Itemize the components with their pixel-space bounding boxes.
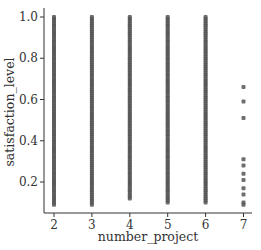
data-point [242, 172, 246, 176]
y-tick-label: 1.0 [19, 10, 38, 24]
x-tick-label: 7 [240, 218, 248, 232]
y-tick-label: 0.6 [19, 93, 38, 107]
y-tick-label: 0.8 [19, 51, 38, 65]
data-point [242, 192, 246, 196]
data-point [242, 186, 246, 190]
data-point [242, 178, 246, 182]
y-tick-label: 0.2 [19, 175, 38, 189]
data-point [90, 203, 94, 207]
x-tick-label: 3 [88, 218, 96, 232]
data-point [52, 203, 56, 207]
data-point [242, 157, 246, 161]
scatter-plot: 0.20.40.60.81.0 234567 number_project sa… [0, 0, 261, 250]
data-point [204, 201, 208, 205]
data-point [242, 116, 246, 120]
y-tick-label: 0.4 [19, 134, 38, 148]
data-point [242, 203, 246, 207]
data-point [128, 197, 132, 201]
x-axis-title: number_project [98, 229, 198, 244]
data-point [166, 201, 170, 205]
y-axis-ticks: 0.20.40.60.81.0 [19, 10, 44, 189]
data-points [52, 15, 246, 207]
y-axis-title: satisfaction_level [2, 57, 17, 166]
x-tick-label: 6 [202, 218, 210, 232]
data-point [242, 85, 246, 89]
x-tick-label: 2 [50, 218, 58, 232]
data-point [242, 164, 246, 168]
data-point [242, 100, 246, 104]
